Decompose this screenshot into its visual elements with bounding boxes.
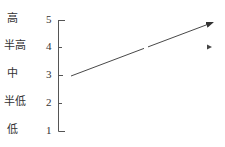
- level-axis: [59, 20, 66, 132]
- trend-arrow: [71, 22, 213, 76]
- triangle-marker-icon: [207, 45, 212, 50]
- diagram-canvas: [0, 0, 225, 147]
